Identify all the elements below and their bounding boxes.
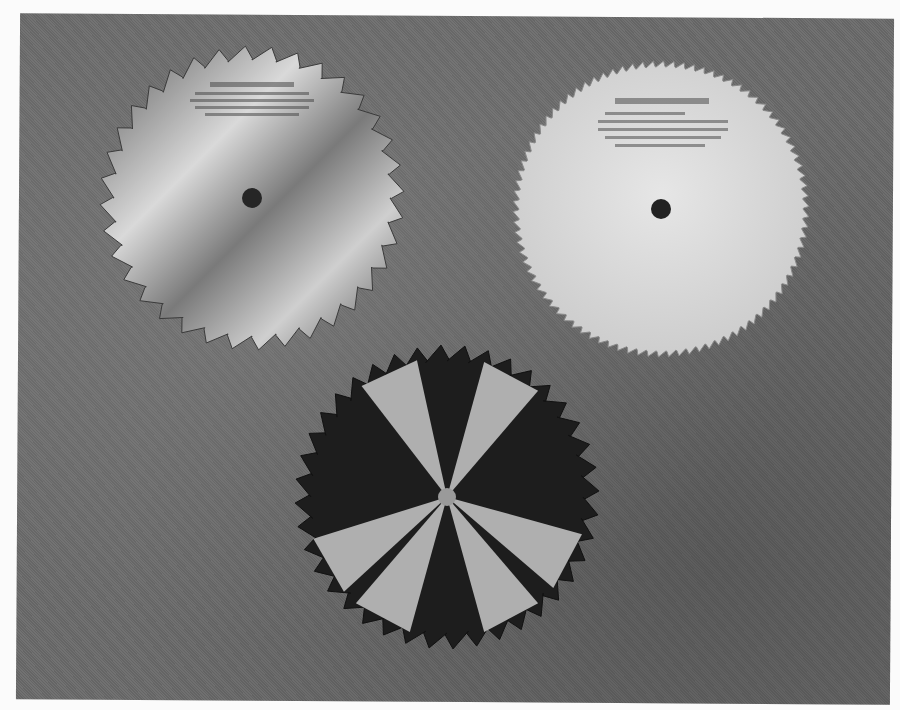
- dado-style-blade: [295, 345, 599, 649]
- arbor-hole: [242, 188, 262, 208]
- arbor-hole: [438, 488, 456, 506]
- combination-blade: [100, 46, 404, 350]
- fine-tooth-blade: [513, 61, 809, 357]
- arbor-hole: [651, 199, 671, 219]
- saw-blades-illustration: [0, 0, 900, 710]
